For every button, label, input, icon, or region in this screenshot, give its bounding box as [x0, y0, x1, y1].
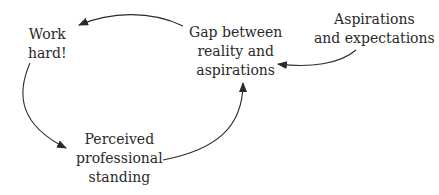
- arrow-standing-to-gap: [163, 83, 243, 160]
- node-standing-line-2: professional: [76, 149, 163, 168]
- node-aspirations-line-1: Aspirations: [314, 10, 435, 29]
- node-gap-line-2: reality and: [189, 42, 282, 61]
- node-standing-line-3: standing: [76, 168, 163, 187]
- node-gap-line-3: aspirations: [189, 61, 282, 80]
- arrow-aspirations-to-gap: [278, 50, 356, 65]
- node-work-hard-line-1: Work: [28, 25, 67, 44]
- node-work-hard-line-2: hard!: [28, 44, 67, 63]
- node-standing: Perceived professional standing: [76, 130, 163, 187]
- node-gap-line-1: Gap between: [189, 23, 282, 42]
- arrow-work-to-standing: [23, 63, 66, 148]
- causal-loop-diagram: Work hard! Gap between reality and aspir…: [0, 0, 439, 195]
- node-gap: Gap between reality and aspirations: [189, 23, 282, 80]
- arrow-gap-to-work: [79, 15, 183, 26]
- node-standing-line-1: Perceived: [76, 130, 163, 149]
- node-aspirations-line-2: and expectations: [314, 29, 435, 48]
- node-aspirations: Aspirations and expectations: [314, 10, 435, 48]
- node-work-hard: Work hard!: [28, 25, 67, 63]
